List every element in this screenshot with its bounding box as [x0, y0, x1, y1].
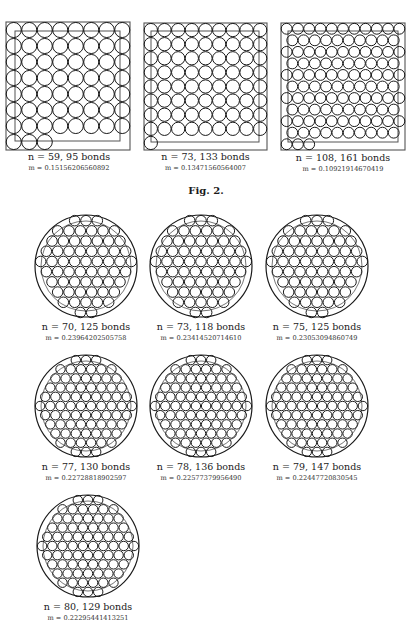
caption-m-value: m = 0.23414520714610 [141, 334, 261, 342]
caption-m-value: m = 0.23964202505758 [26, 334, 146, 342]
caption-n-bonds: n = 78, 136 bonds [141, 461, 261, 472]
caption-n-bonds: n = 70, 125 bonds [26, 321, 146, 332]
caption-n-bonds: n = 77, 130 bonds [26, 461, 146, 472]
circle-packings-diagram [0, 0, 412, 625]
caption-m-value: m = 0.22728818902597 [26, 474, 146, 482]
caption-m-value: m = 0.22577379956490 [141, 474, 261, 482]
caption-m-value: m = 0.22295441413251 [28, 614, 148, 622]
caption-n-bonds: n = 75, 125 bonds [257, 321, 377, 332]
caption-m-value: m = 0.22447720830545 [257, 474, 377, 482]
caption-n-bonds: n = 73, 118 bonds [141, 321, 261, 332]
caption-n-bonds: n = 79, 147 bonds [257, 461, 377, 472]
caption-m-value: m = 0.23053094860749 [257, 334, 377, 342]
caption-n-bonds: n = 80, 129 bonds [28, 601, 148, 612]
